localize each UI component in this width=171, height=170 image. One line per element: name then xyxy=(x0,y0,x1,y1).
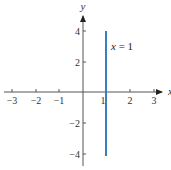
y-tick-label: −2 xyxy=(69,118,80,129)
y-tick-label: −4 xyxy=(69,149,80,160)
x-tick-label: −3 xyxy=(7,95,18,106)
x-tick-label: −1 xyxy=(54,95,65,106)
y-axis-label: y xyxy=(80,0,86,12)
x-axis-label: x xyxy=(167,85,171,97)
x-tick-label: −2 xyxy=(31,95,42,106)
y-tick-label: 4 xyxy=(75,26,80,37)
chart: −3 −2 −1 1 2 3 4 2 −2 −4 y x x = 1 xyxy=(0,0,171,170)
x-tick-label: 3 xyxy=(152,95,157,106)
y-tick-label: 2 xyxy=(75,57,80,68)
x-tick-label: 2 xyxy=(128,95,133,106)
line-annotation: x = 1 xyxy=(110,40,133,52)
x-tick-label: 1 xyxy=(101,95,106,106)
